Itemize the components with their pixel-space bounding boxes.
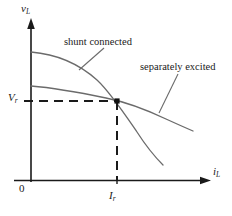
y-axis-label-sub: L [26, 7, 30, 16]
rated-operating-point-marker [114, 98, 119, 103]
x-axis-label-sub: L [216, 170, 220, 179]
figure-dc-generator-load-characteristics: vL iL Vr Ir 0 shunt connected separately… [0, 0, 232, 216]
origin-label: 0 [19, 183, 25, 194]
y-axis-tick-label-rated-voltage: Vr [8, 92, 18, 103]
leader-line-shunt-connected [79, 48, 104, 70]
annotation-shunt-connected: shunt connected [64, 37, 132, 48]
plot-canvas [0, 0, 232, 216]
leader-line-separately-excited [159, 74, 178, 113]
x-axis-arrowhead [200, 177, 211, 185]
rated-voltage-sub: r [15, 96, 18, 105]
y-axis-arrowhead [27, 18, 35, 29]
y-axis-label: vL [21, 3, 30, 14]
x-axis [14, 177, 211, 185]
x-axis-label: iL [213, 166, 220, 177]
x-axis-tick-label-rated-current: Ir [109, 190, 116, 201]
rated-voltage-main: V [8, 91, 15, 103]
annotation-separately-excited: separately excited [140, 62, 216, 73]
rated-current-sub: r [113, 194, 116, 203]
